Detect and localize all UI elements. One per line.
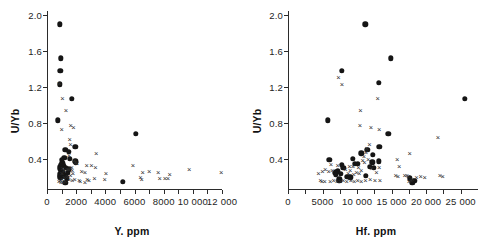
data-point-cross	[409, 176, 416, 183]
x-tick-left	[62, 190, 63, 194]
figure-two-panel-scatter: U/Yb 0.40.81.21.62.0 0200040006000800010…	[0, 0, 489, 241]
data-point-cross	[186, 165, 193, 172]
x-tick-label-left: 2000	[65, 196, 87, 207]
data-point-circle	[60, 169, 65, 174]
data-point-cross	[405, 178, 412, 185]
data-point-circle	[339, 162, 344, 167]
data-point-cross	[58, 178, 65, 185]
data-point-circle	[333, 172, 338, 177]
x-tick-right	[392, 190, 393, 194]
data-point-cross	[130, 161, 137, 168]
data-point-cross	[62, 107, 69, 114]
data-point-circle	[336, 177, 341, 182]
data-point-cross	[92, 163, 99, 170]
data-point-cross	[67, 164, 74, 171]
data-point-circle	[370, 160, 375, 165]
data-point-circle	[58, 56, 63, 61]
data-point-cross	[358, 167, 365, 174]
y-axis-line-right	[288, 11, 289, 190]
data-point-cross	[55, 178, 62, 185]
data-point-cross	[72, 159, 79, 166]
data-point-circle	[62, 172, 67, 177]
data-point-circle	[57, 22, 62, 27]
data-point-cross	[317, 177, 324, 184]
data-point-circle	[73, 160, 78, 165]
x-axis-label-right: Hf. ppm	[274, 225, 478, 237]
data-point-cross	[362, 177, 369, 184]
data-point-cross	[434, 134, 441, 141]
data-point-cross	[361, 159, 368, 166]
data-point-cross	[407, 177, 414, 184]
data-point-circle	[327, 157, 332, 162]
x-tick-left	[47, 190, 48, 194]
x-tick-left	[164, 190, 165, 194]
data-point-circle	[57, 68, 62, 73]
data-point-cross	[139, 169, 146, 176]
data-point-cross	[394, 172, 401, 179]
data-point-cross	[78, 168, 85, 175]
data-point-cross	[357, 107, 364, 114]
data-point-cross	[81, 178, 88, 185]
data-point-circle	[341, 165, 346, 170]
y-axis-line-left	[47, 11, 48, 190]
data-point-cross	[65, 176, 72, 183]
data-point-cross	[71, 157, 78, 164]
data-point-cross	[322, 166, 329, 173]
x-axis-line-right	[288, 189, 478, 190]
data-point-cross	[327, 161, 334, 168]
data-point-cross	[367, 176, 374, 183]
data-point-circle	[363, 22, 368, 27]
data-point-cross	[356, 169, 363, 176]
y-tick-label-right: 0.4	[269, 153, 283, 164]
data-point-circle	[72, 159, 77, 164]
data-point-cross	[61, 167, 68, 174]
data-point-circle	[337, 178, 342, 183]
data-point-circle	[73, 144, 78, 149]
data-point-circle	[59, 162, 64, 167]
data-point-cross	[349, 162, 356, 169]
x-tick-label-right: 20 000	[411, 196, 441, 207]
x-tick-right	[357, 190, 358, 194]
data-point-cross	[346, 162, 353, 169]
data-point-circle	[365, 147, 370, 152]
data-point-cross	[138, 176, 145, 183]
data-point-cross	[103, 169, 110, 176]
x-tick-right	[461, 190, 462, 194]
panel-hf-ppm: U/Yb 0.40.81.21.62.0 0500010 00015 00020…	[244, 0, 488, 241]
x-axis-label-left: Y. ppm	[30, 225, 234, 237]
data-point-cross	[359, 157, 366, 164]
data-point-cross	[338, 81, 345, 88]
x-tick-left	[193, 190, 194, 194]
data-point-circle	[57, 175, 62, 180]
data-point-cross	[155, 169, 162, 176]
data-point-cross	[64, 172, 71, 179]
data-point-cross	[71, 176, 78, 183]
x-tick-left	[149, 190, 150, 194]
data-point-circle	[65, 170, 70, 175]
data-point-circle	[359, 151, 364, 156]
x-tick-left	[178, 190, 179, 194]
data-point-cross	[376, 126, 383, 133]
data-point-circle	[355, 161, 360, 166]
x-tick-left	[120, 190, 121, 194]
data-point-circle	[410, 180, 415, 185]
data-point-circle	[350, 156, 355, 161]
data-point-cross	[358, 178, 365, 185]
data-point-circle	[55, 117, 60, 122]
data-point-circle	[325, 117, 330, 122]
data-point-circle	[63, 174, 68, 179]
data-point-cross	[218, 169, 225, 176]
x-tick-label-left: 4000	[94, 196, 116, 207]
data-point-cross	[67, 141, 74, 148]
data-point-cross	[67, 121, 74, 128]
data-point-cross	[70, 124, 77, 131]
x-tick-label-right: 25 000	[446, 196, 476, 207]
data-point-cross	[367, 124, 374, 131]
data-point-cross	[403, 171, 410, 178]
data-point-cross	[65, 152, 72, 159]
x-tick-left	[135, 190, 136, 194]
data-point-cross	[417, 172, 424, 179]
data-point-cross	[59, 176, 66, 183]
data-point-cross	[353, 169, 360, 176]
data-point-cross	[321, 178, 328, 185]
